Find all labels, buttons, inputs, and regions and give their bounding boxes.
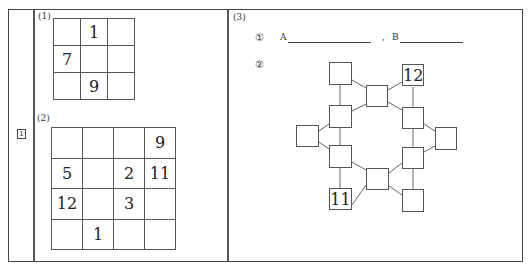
node-top-left[interactable] bbox=[329, 62, 352, 85]
node-bottom-right[interactable] bbox=[402, 189, 424, 212]
node-right-upper[interactable] bbox=[402, 107, 424, 129]
node-far-left[interactable] bbox=[296, 125, 319, 147]
node-left-lower[interactable] bbox=[329, 145, 352, 168]
node-top-center[interactable] bbox=[366, 85, 388, 107]
node-top-right[interactable]: 12 bbox=[402, 64, 424, 86]
node-bottom-left[interactable]: 11 bbox=[329, 188, 352, 210]
node-left-upper[interactable] bbox=[329, 105, 352, 128]
node-right-lower[interactable] bbox=[402, 147, 424, 169]
node-far-right[interactable] bbox=[435, 127, 457, 150]
node-bottom-center[interactable] bbox=[366, 168, 389, 190]
